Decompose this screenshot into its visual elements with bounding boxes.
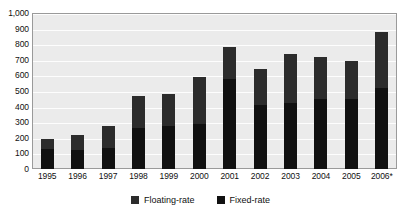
- bar-2006: [375, 32, 388, 169]
- bar-segment-fixed-rate: [132, 128, 145, 169]
- bar-2004: [314, 57, 327, 169]
- legend-swatch-icon: [131, 196, 139, 204]
- x-axis-tick-label: 2002: [251, 171, 270, 181]
- legend-item-floating-rate[interactable]: Floating-rate: [131, 195, 195, 205]
- bar-segment-fixed-rate: [314, 99, 327, 169]
- bar-2005: [345, 61, 358, 169]
- bar-segment-floating-rate: [223, 47, 236, 79]
- bar-segment-floating-rate: [71, 135, 84, 149]
- y-axis-tick-label: 900: [15, 24, 29, 34]
- bar-segment-floating-rate: [254, 69, 267, 105]
- bar-segment-floating-rate: [162, 94, 175, 126]
- bar-segment-fixed-rate: [375, 88, 388, 169]
- y-axis-tick-label: 700: [15, 55, 29, 65]
- bar-2000: [193, 77, 206, 169]
- bar-segment-fixed-rate: [193, 124, 206, 169]
- x-axis-tick-label: 2000: [190, 171, 209, 181]
- y-axis-tick-label: 500: [15, 86, 29, 96]
- bar-segment-fixed-rate: [102, 148, 115, 169]
- bar-segment-fixed-rate: [284, 103, 297, 169]
- y-axis-tick-label: 800: [15, 39, 29, 49]
- bar-segment-fixed-rate: [223, 79, 236, 169]
- bars-layer: [32, 13, 397, 169]
- x-axis-tick-label: 1996: [68, 171, 87, 181]
- y-axis-tick-label: 400: [15, 102, 29, 112]
- x-axis-tick-label: 1995: [38, 171, 57, 181]
- bar-segment-fixed-rate: [71, 150, 84, 170]
- bar-segment-floating-rate: [132, 96, 145, 128]
- bar-segment-fixed-rate: [162, 126, 175, 169]
- bar-segment-fixed-rate: [254, 105, 267, 169]
- bar-segment-floating-rate: [41, 139, 54, 148]
- y-axis-tick-label: 300: [15, 117, 29, 127]
- bar-1999: [162, 94, 175, 169]
- bar-1998: [132, 96, 145, 169]
- y-axis-tick-label: 100: [15, 148, 29, 158]
- y-axis-tick-label: 600: [15, 70, 29, 80]
- x-axis-tick-label: 2003: [281, 171, 300, 181]
- bar-1996: [71, 135, 84, 169]
- bar-segment-floating-rate: [375, 32, 388, 88]
- bar-segment-floating-rate: [102, 126, 115, 148]
- bar-segment-fixed-rate: [345, 99, 358, 169]
- legend-item-fixed-rate[interactable]: Fixed-rate: [217, 195, 271, 205]
- y-axis-tick-label: 0: [24, 164, 29, 174]
- bar-2002: [254, 69, 267, 169]
- x-axis-tick-label: 2006*: [371, 171, 393, 181]
- chart-legend: Floating-rateFixed-rate: [0, 195, 401, 205]
- y-axis: 01002003004005006007008009001,000: [0, 13, 29, 169]
- bar-1997: [102, 126, 115, 169]
- y-axis-tick-label: 200: [15, 133, 29, 143]
- bar-1995: [41, 139, 54, 169]
- stacked-bar-chart: 01002003004005006007008009001,000 199519…: [0, 0, 401, 224]
- bar-2001: [223, 47, 236, 169]
- x-axis: 1995199619971998199920002001200220032004…: [32, 171, 397, 185]
- bar-segment-floating-rate: [284, 54, 297, 103]
- legend-label: Floating-rate: [144, 195, 195, 205]
- x-axis-tick-label: 1998: [129, 171, 148, 181]
- bar-segment-floating-rate: [345, 61, 358, 99]
- x-axis-tick-label: 2004: [312, 171, 331, 181]
- bar-segment-fixed-rate: [41, 149, 54, 169]
- bar-segment-floating-rate: [193, 77, 206, 124]
- legend-swatch-icon: [217, 196, 225, 204]
- legend-label: Fixed-rate: [230, 195, 271, 205]
- x-axis-tick-label: 1997: [99, 171, 118, 181]
- x-axis-tick-label: 1999: [160, 171, 179, 181]
- x-axis-tick-label: 2001: [220, 171, 239, 181]
- bar-segment-floating-rate: [314, 57, 327, 98]
- y-axis-tick-label: 1,000: [8, 8, 29, 18]
- x-axis-tick-label: 2005: [342, 171, 361, 181]
- bar-2003: [284, 54, 297, 169]
